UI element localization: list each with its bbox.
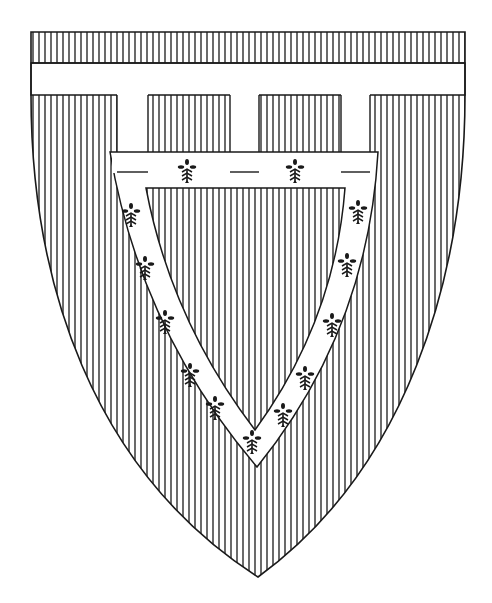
label-bar — [31, 63, 465, 95]
shield-illustration — [0, 0, 492, 603]
heraldic-shield-figure: Shield with label of three points and er… — [0, 0, 492, 603]
band-corner-left — [112, 153, 117, 173]
